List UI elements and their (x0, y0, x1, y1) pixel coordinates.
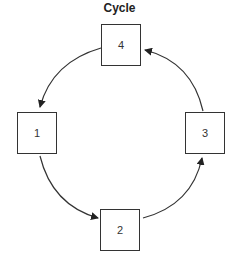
arrow-1-to-2 (40, 156, 98, 218)
node-2: 2 (100, 209, 140, 251)
arrow-3-to-4 (145, 50, 203, 111)
node-3: 3 (185, 112, 225, 154)
node-label: 3 (202, 127, 208, 139)
node-label: 1 (34, 127, 40, 139)
arrow-4-to-1 (40, 48, 101, 107)
node-label: 4 (118, 39, 124, 51)
node-label: 2 (117, 224, 123, 236)
node-4: 4 (101, 24, 141, 66)
arrow-2-to-3 (143, 158, 202, 218)
node-1: 1 (17, 112, 57, 154)
